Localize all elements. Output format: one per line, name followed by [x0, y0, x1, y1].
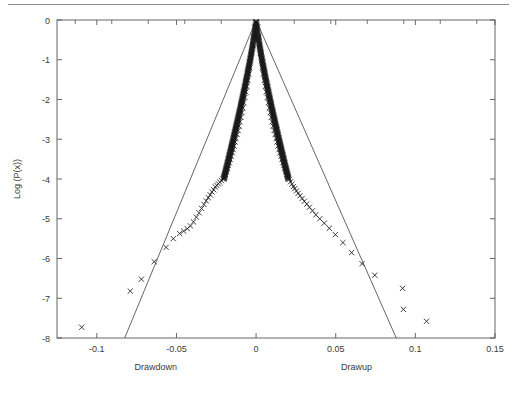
- xlabel-drawdown: Drawdown: [134, 362, 177, 372]
- x-tick-label: 0.05: [327, 344, 345, 354]
- data-point-marker: [208, 192, 213, 197]
- x-tick-label: 0: [254, 344, 259, 354]
- data-point-marker: [79, 325, 84, 330]
- data-point-marker: [333, 232, 338, 237]
- data-point-marker: [327, 226, 332, 231]
- x-tick-label: -0.1: [89, 344, 105, 354]
- dense-core-left: [221, 19, 258, 182]
- data-point-marker: [400, 286, 405, 291]
- data-point-marker: [171, 236, 176, 241]
- y-tick-label: -5: [42, 214, 50, 224]
- data-point-marker: [164, 245, 169, 250]
- xlabel-drawup: Drawup: [341, 362, 372, 372]
- fit-line: [256, 20, 396, 338]
- y-tick-label: 0: [45, 16, 50, 26]
- plot-frame: [57, 20, 495, 338]
- y-tick-label: -8: [42, 334, 50, 344]
- data-point-marker: [139, 277, 144, 282]
- ylabel: Log (P(x)): [12, 159, 22, 199]
- data-point-marker: [424, 319, 429, 324]
- data-point-marker: [213, 184, 218, 189]
- fit-line: [125, 20, 256, 338]
- data-point-marker: [206, 195, 211, 200]
- x-tick-label: 0.15: [486, 344, 504, 354]
- y-tick-label: -7: [42, 294, 50, 304]
- data-point-marker: [191, 219, 196, 224]
- y-tick-label: -2: [42, 95, 50, 105]
- y-tick-label: -4: [42, 175, 50, 185]
- y-tick-label: -1: [42, 55, 50, 65]
- data-point-marker: [349, 250, 354, 255]
- data-point-marker: [128, 289, 133, 294]
- y-tick-label: -3: [42, 135, 50, 145]
- dense-core-right: [254, 19, 291, 182]
- figure-container: -0.1-0.0500.050.10.150-1-2-3-4-5-6-7-8Dr…: [0, 0, 517, 393]
- data-point-marker: [322, 221, 327, 226]
- data-point-marker: [209, 190, 214, 195]
- x-tick-label: 0.1: [409, 344, 422, 354]
- data-series-left: [79, 25, 257, 330]
- data-point-marker: [340, 240, 345, 245]
- y-tick-label: -6: [42, 254, 50, 264]
- chart-svg: -0.1-0.0500.050.10.150-1-2-3-4-5-6-7-8Dr…: [0, 0, 517, 393]
- data-point-marker: [401, 307, 406, 312]
- x-tick-label: -0.05: [166, 344, 187, 354]
- data-point-marker: [194, 215, 199, 220]
- data-point-marker: [297, 193, 302, 198]
- data-point-marker: [310, 208, 315, 213]
- data-series-right: [255, 25, 429, 324]
- data-point-marker: [372, 273, 377, 278]
